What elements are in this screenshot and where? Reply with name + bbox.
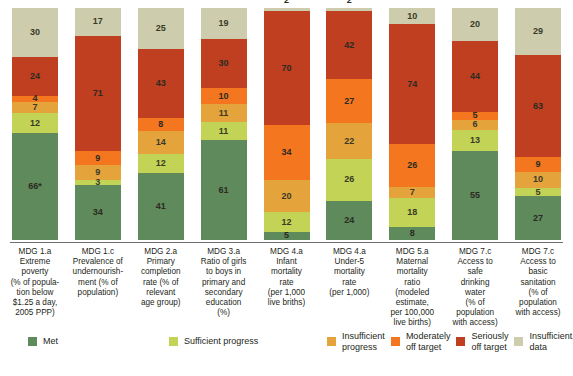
category-label-line: MDG 3.a: [193, 247, 255, 257]
bar-segment[interactable]: 13: [452, 130, 498, 151]
bar-column[interactable]: 193010111161: [201, 0, 247, 241]
bar-segment[interactable]: 18: [389, 198, 435, 227]
bar-segment[interactable]: 7: [12, 102, 58, 113]
bar-column[interactable]: 24227222624: [326, 0, 372, 241]
category-label-line: mortality: [381, 267, 443, 277]
category-label-line: MDG 7.c: [507, 247, 569, 257]
bar-segment[interactable]: 63: [515, 55, 561, 157]
segment-value-label: 11: [219, 109, 229, 118]
segment-value-label: 10: [407, 12, 417, 21]
category-label: MDG 4.aInfantmortalityrate(per 1,000live…: [256, 247, 318, 325]
legend-label: Insufficient data: [529, 331, 572, 353]
bar-segment[interactable]: 42: [326, 11, 372, 79]
bar-stack: 2044561355: [452, 8, 498, 240]
category-label-line: Under-5: [318, 257, 380, 267]
segment-value-label: 9: [95, 154, 100, 163]
bar-segment[interactable]: 12: [264, 212, 310, 231]
bar-stack: 193010111161: [201, 8, 247, 240]
category-label: MDG 3.aRatio of girlsto boys inprimary a…: [193, 247, 255, 325]
bar-segment[interactable]: 61: [201, 140, 247, 240]
category-label-line: MDG 4.a: [318, 247, 380, 257]
bar-segment[interactable]: 12: [138, 154, 184, 173]
bar-segment[interactable]: 24: [326, 201, 372, 240]
bar-segment[interactable]: 11: [201, 122, 247, 140]
bar-segment[interactable]: 66*: [12, 133, 58, 240]
bar-segment[interactable]: 74: [389, 24, 435, 144]
bar-segment[interactable]: 17: [75, 8, 121, 36]
legend-item[interactable]: Insufficient data: [514, 334, 572, 349]
legend-item[interactable]: Seriously off target: [456, 334, 508, 349]
bar-column[interactable]: 2963910527: [515, 0, 561, 241]
bar-segment[interactable]: 30: [201, 39, 247, 88]
bar-segment[interactable]: 41: [138, 173, 184, 240]
bar-segment[interactable]: 27: [326, 79, 372, 123]
bar-segment[interactable]: 30: [12, 8, 58, 57]
bar-segment[interactable]: 19: [201, 8, 247, 39]
category-label-line: sanitation: [507, 278, 569, 288]
bar-segment[interactable]: 11: [201, 104, 247, 122]
bar-segment[interactable]: 43: [138, 49, 184, 119]
segment-value-label: 74: [407, 80, 417, 89]
category-label-line: (per 1,000: [256, 288, 318, 298]
category-label-line: MDG 5.a: [381, 247, 443, 257]
bar-segment[interactable]: 5: [515, 188, 561, 196]
bar-segment[interactable]: 27: [515, 196, 561, 240]
bar-segment[interactable]: 34: [75, 185, 121, 240]
legend-item[interactable]: Sufficient progress: [169, 334, 321, 349]
category-label-line: 2005 PPP): [4, 308, 66, 318]
bar-column[interactable]: 2703420125: [264, 0, 310, 241]
category-label-line: population): [67, 288, 129, 298]
bar-segment[interactable]: 9: [515, 157, 561, 172]
bar-stack: 2963910527: [515, 8, 561, 240]
bar-segment[interactable]: 20: [264, 180, 310, 212]
bar-column[interactable]: 177199334: [75, 0, 121, 241]
bar-segment[interactable]: 7: [389, 187, 435, 198]
category-label-line: with access): [444, 318, 506, 328]
bar-segment[interactable]: 55: [452, 151, 498, 240]
bar-segment[interactable]: 29: [515, 8, 561, 55]
bar-segment[interactable]: 70: [264, 11, 310, 125]
category-label-line: primary and: [193, 278, 255, 288]
category-label-line: (%): [193, 308, 255, 318]
bar-segment[interactable]: 25: [138, 8, 184, 49]
bar-segment[interactable]: 8: [138, 118, 184, 131]
bar-column[interactable]: 3024471266*: [12, 0, 58, 241]
category-label-line: live births): [381, 318, 443, 328]
category-label-line: live briths): [256, 298, 318, 308]
bar-segment[interactable]: 44: [452, 41, 498, 112]
bar-segment[interactable]: 22: [326, 123, 372, 159]
bar-column[interactable]: 25438141241: [138, 0, 184, 241]
bar-segment[interactable]: 71: [75, 36, 121, 151]
segment-value-label: 20: [470, 20, 480, 29]
bar-column[interactable]: 1074267188: [389, 0, 435, 241]
bar-column[interactable]: 2044561355: [452, 0, 498, 241]
bar-segment[interactable]: 10: [201, 88, 247, 104]
bar-segment[interactable]: 26: [326, 159, 372, 201]
category-label-line: Prevalence of: [67, 257, 129, 267]
legend-item[interactable]: Moderately off target: [391, 334, 451, 349]
bar-segment[interactable]: 9: [75, 151, 121, 166]
bar-segment[interactable]: 10: [515, 172, 561, 188]
bar-stack: 24227222624: [326, 8, 372, 240]
legend-item[interactable]: Insufficient progress: [327, 334, 385, 349]
bar-segment[interactable]: 5: [264, 232, 310, 240]
legend-item[interactable]: Met: [28, 334, 163, 349]
segment-value-label: 44: [470, 72, 480, 81]
segment-value-label: 43: [156, 79, 166, 88]
bar-segment[interactable]: 34: [264, 125, 310, 180]
segment-value-label: 10: [533, 175, 543, 184]
category-label-line: MDG 4.a: [256, 247, 318, 257]
category-label-line: Maternal: [381, 257, 443, 267]
category-label-line: ratio: [381, 278, 443, 288]
segment-value-label: 13: [470, 136, 480, 145]
bar-segment[interactable]: 24: [12, 57, 58, 96]
bar-segment[interactable]: 10: [389, 8, 435, 24]
bar-segment[interactable]: 8: [389, 227, 435, 240]
bar-segment[interactable]: 12: [12, 113, 58, 132]
segment-value-label: 18: [407, 208, 417, 217]
bar-segment[interactable]: 6: [452, 120, 498, 130]
bar-segment[interactable]: 20: [452, 8, 498, 40]
bar-segment[interactable]: 14: [138, 131, 184, 154]
bar-segment[interactable]: 26: [389, 144, 435, 186]
category-label-line: mortality: [256, 267, 318, 277]
